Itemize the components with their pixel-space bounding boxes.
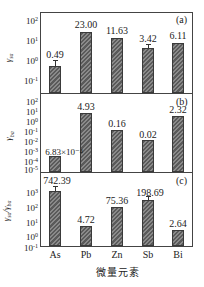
panel-a-value-label: 6.11 — [169, 31, 186, 41]
panel-c-bar-zn — [111, 207, 123, 246]
panel-b-ylabel: γba — [3, 131, 15, 141]
x-category-sb: Sb — [143, 249, 154, 260]
x-category-zn: Zn — [111, 249, 122, 260]
panel-c-ylabel: γsa/γba — [1, 200, 13, 221]
panel-a-value-label: 0.49 — [46, 50, 64, 60]
panel-a-ylabel: γsa — [3, 53, 15, 62]
panel-c-bar-sb — [142, 200, 154, 246]
panel-a-tag: (a) — [176, 14, 187, 25]
panel-c-tick: 10-1 — [16, 242, 38, 253]
panel-b-value-label: 0.02 — [139, 130, 157, 140]
panel-b-value-label: 6.83×10⁻⁴ — [45, 147, 83, 157]
panel-a-errorcap — [146, 44, 151, 45]
panel-b-value-label: 2.32 — [169, 105, 187, 115]
panel-b-bar-bi — [172, 116, 184, 172]
panel-a-value-label: 23.00 — [75, 20, 98, 30]
panel-b-bar-pb — [80, 113, 92, 172]
x-axis-title: 微量元素 — [96, 264, 140, 279]
panel-c-errorcap — [53, 186, 58, 187]
panel-c-bar-pb — [80, 226, 92, 246]
panel-b-value-label: 4.93 — [77, 102, 95, 112]
panel-a-value-label: 3.42 — [139, 34, 157, 44]
panel-a-value-label: 11.63 — [106, 26, 128, 36]
panel-a-tick: 100 — [16, 55, 38, 66]
panel-c-value-label: 198.69 — [136, 188, 164, 198]
panel-a-tick: 10-1 — [16, 75, 38, 86]
panel-a-bar-bi — [172, 43, 184, 93]
panel-c-tick: 103 — [16, 187, 38, 198]
panel-b-bar-as — [49, 156, 61, 172]
x-category-bi: Bi — [173, 249, 182, 260]
panel-c-tick: 102 — [16, 202, 38, 213]
panel-a-bar-pb — [80, 32, 92, 93]
panel-a-tick: 101 — [16, 35, 38, 46]
panel-c-tag: (c) — [176, 175, 187, 186]
panel-a-bar-as — [49, 66, 61, 93]
panel-b-bar-zn — [111, 130, 123, 172]
panel-a-errorcap — [53, 60, 58, 61]
panel-c-bar-bi — [172, 230, 184, 246]
panel-c-tick: 101 — [16, 217, 38, 228]
x-category-as: As — [49, 249, 60, 260]
panel-c-tick: 100 — [16, 231, 38, 242]
panel-c-bar-as — [49, 191, 61, 246]
figure: (a) (b) (c) γsa γba γsa/γba 102 101 100 … — [0, 0, 204, 287]
panel-b-tick: 10-5 — [16, 164, 38, 175]
x-category-pb: Pb — [81, 249, 92, 260]
panel-b-bar-sb — [142, 140, 154, 172]
panel-a-bar-sb — [142, 48, 154, 93]
panel-c-value-label: 75.36 — [106, 196, 129, 206]
panel-a-tick: 102 — [16, 15, 38, 26]
panel-c-value-label: 4.72 — [77, 215, 95, 225]
panel-a-bar-zn — [111, 38, 123, 93]
panel-c-value-label: 742.39 — [43, 176, 71, 186]
panel-b-value-label: 0.16 — [108, 119, 126, 129]
panel-c-value-label: 2.64 — [169, 219, 187, 229]
